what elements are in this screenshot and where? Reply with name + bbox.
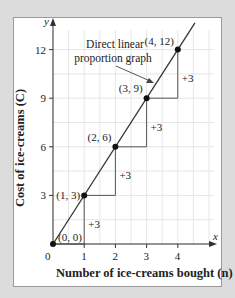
svg-text:(3, 9): (3, 9) — [119, 82, 143, 95]
svg-text:6: 6 — [41, 141, 47, 153]
step-annotation: +3 — [88, 218, 100, 230]
svg-text:Direct linear: Direct linear — [86, 38, 144, 50]
chart-text: +3+3+3+3yx0123436912(0, 0)(1, 3)(2, 6)(3… — [35, 15, 218, 262]
x-axis-title: Number of ice-creams bought (n) — [56, 266, 233, 281]
svg-text:y: y — [43, 15, 49, 27]
svg-text:0: 0 — [45, 250, 51, 262]
step-annotation: +3 — [119, 169, 131, 181]
y-axis-title: Cost of ice-creams (C) — [13, 89, 28, 207]
svg-text:(2, 6): (2, 6) — [88, 131, 112, 144]
svg-text:1: 1 — [81, 250, 87, 262]
step-annotation: +3 — [151, 121, 163, 133]
svg-text:9: 9 — [41, 92, 47, 104]
svg-text:2: 2 — [112, 250, 118, 262]
svg-text:x: x — [212, 230, 218, 242]
direct-proportion-chart: +3+3+3+3yx0123436912(0, 0)(1, 3)(2, 6)(3… — [0, 0, 235, 298]
svg-text:3: 3 — [41, 189, 47, 201]
svg-text:(0, 0): (0, 0) — [58, 231, 82, 244]
svg-text:12: 12 — [35, 44, 46, 56]
svg-text:4: 4 — [175, 250, 181, 262]
svg-text:proportion graph: proportion graph — [74, 52, 152, 65]
svg-text:3: 3 — [144, 250, 150, 262]
step-annotation: +3 — [182, 72, 194, 84]
svg-text:(4, 12): (4, 12) — [144, 35, 174, 48]
svg-text:(1, 3): (1, 3) — [56, 189, 80, 202]
